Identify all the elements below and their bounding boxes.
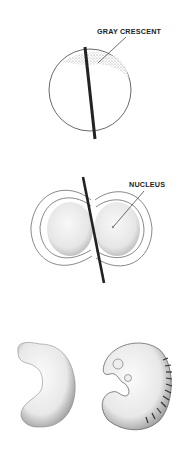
left-blastomere — [47, 202, 93, 256]
gray-crescent-label: GRAY CRESCENT — [97, 27, 162, 36]
embryo-development-diagram: GRAY CRESCENT NUCLEUS — [0, 0, 184, 457]
tailbud-embryo — [102, 343, 171, 430]
right-blastomere — [94, 202, 140, 256]
embryo-eye — [113, 359, 123, 369]
nucleus-dot — [112, 226, 114, 228]
fertilized-egg-panel: GRAY CRESCENT — [49, 27, 162, 139]
early-embryo — [18, 342, 75, 427]
embryo-heart — [125, 375, 132, 382]
nucleus-label: NUCLEUS — [129, 180, 165, 189]
first-cleavage-panel: NUCLEUS — [31, 177, 165, 283]
embryos-panel — [18, 342, 172, 429]
